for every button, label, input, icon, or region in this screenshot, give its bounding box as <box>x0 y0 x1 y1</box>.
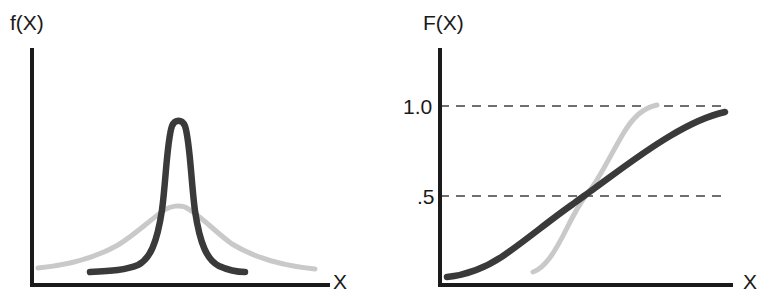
pdf-x-axis-label: X <box>333 270 347 293</box>
cdf-x-axis-label: X <box>743 270 757 293</box>
cdf-panel: 1.0 .5 F(X) X <box>385 0 770 304</box>
pdf-curve-high-variance <box>38 206 315 269</box>
cdf-y-tick-label-1-0: 1.0 <box>403 95 432 118</box>
pdf-panel: f(X) X <box>0 0 385 304</box>
figure-root: f(X) X 1.0 .5 F(X) X <box>0 0 770 304</box>
cdf-y-axis-label: F(X) <box>423 11 464 34</box>
cdf-y-tick-label-0-5: .5 <box>417 185 435 208</box>
cdf-curve-high-variance <box>447 112 725 277</box>
pdf-y-axis-label: f(X) <box>10 11 44 34</box>
